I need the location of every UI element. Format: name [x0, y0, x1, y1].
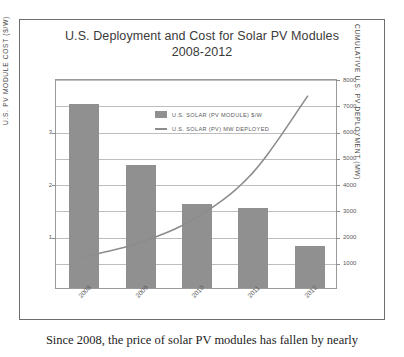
right-tick-mark — [336, 159, 340, 160]
legend-line-swatch-icon — [155, 128, 167, 130]
left-tick-label: 1 — [49, 234, 52, 240]
right-tick-mark — [336, 238, 340, 239]
right-tick-label: 6000 — [343, 129, 356, 135]
figure-caption: Since 2008, the price of solar PV module… — [0, 333, 404, 348]
left-tick-label: 2 — [49, 182, 52, 188]
right-tick-mark — [336, 133, 340, 134]
right-tick-label: 2000 — [343, 234, 356, 240]
chart-figure-frame: U.S. Deployment and Cost for Solar PV Mo… — [19, 19, 385, 320]
right-tick-label: 3000 — [343, 208, 356, 214]
right-tick-label: 1000 — [343, 260, 356, 266]
legend-item-line: U.S. SOLAR (PV) MW DEPLOYED — [155, 123, 269, 134]
left-tick-label: 3 — [49, 129, 52, 135]
legend-label-line: U.S. SOLAR (PV) MW DEPLOYED — [172, 126, 269, 132]
right-tick-mark — [336, 80, 340, 81]
legend-bar-swatch-icon — [155, 111, 167, 118]
chart-title-line-1: U.S. Deployment and Cost for Solar PV Mo… — [20, 28, 384, 44]
right-tick-label: 5000 — [343, 155, 356, 161]
right-tick-mark — [336, 185, 340, 186]
right-tick-mark — [336, 106, 340, 107]
chart-title-block: U.S. Deployment and Cost for Solar PV Mo… — [20, 28, 384, 60]
chart-title-line-2: 2008-2012 — [20, 44, 384, 60]
right-tick-label: 7000 — [343, 103, 356, 109]
right-tick-mark — [336, 211, 340, 212]
chart-legend: U.S. SOLAR (PV MODULE) $/W U.S. SOLAR (P… — [155, 109, 269, 137]
right-tick-label: 4000 — [343, 182, 356, 188]
right-tick-label: 8000 — [343, 77, 356, 83]
legend-label-bar: U.S. SOLAR (PV MODULE) $/W — [172, 112, 262, 118]
right-tick-mark — [336, 264, 340, 265]
legend-item-bar: U.S. SOLAR (PV MODULE) $/W — [155, 109, 269, 120]
left-axis-title: U.S. PV MODULE COST ($/W) — [2, 16, 9, 125]
plot-area: 123 10002000300040005000600070008000 200… — [55, 79, 337, 289]
